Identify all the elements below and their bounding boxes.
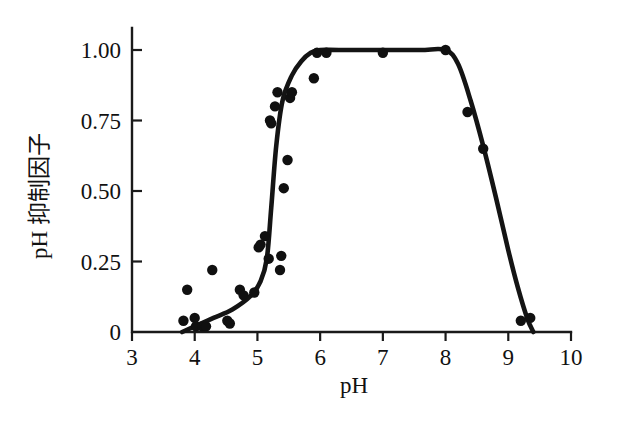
data-point	[182, 285, 192, 295]
x-tick-label: 9	[503, 345, 515, 370]
data-point	[207, 265, 217, 275]
x-axis-title: pH	[340, 373, 368, 398]
data-point	[287, 87, 297, 97]
data-point	[178, 316, 188, 326]
x-tick-label: 3	[126, 345, 138, 370]
data-point	[440, 45, 450, 55]
x-tick-label: 10	[560, 345, 583, 370]
data-point	[309, 73, 319, 83]
data-point	[266, 118, 276, 128]
x-tick-label: 4	[189, 345, 201, 370]
x-tick-label: 6	[314, 345, 326, 370]
x-tick-label: 7	[377, 345, 389, 370]
data-point	[264, 253, 274, 263]
data-point	[312, 48, 322, 58]
data-point	[238, 290, 248, 300]
data-point	[270, 101, 280, 111]
y-tick-label: 1.00	[81, 38, 121, 63]
data-point	[462, 107, 472, 117]
data-point	[321, 48, 331, 58]
data-point	[260, 231, 270, 241]
chart-figure: 345678910 00.250.500.751.00 pH pH 抑制因子	[0, 0, 637, 427]
data-point	[478, 144, 488, 154]
data-point	[275, 265, 285, 275]
data-point	[249, 287, 259, 297]
data-point	[378, 48, 388, 58]
data-point	[525, 313, 535, 323]
data-point	[279, 183, 289, 193]
data-point	[272, 87, 282, 97]
y-tick-label: 0.50	[81, 179, 121, 204]
data-point	[201, 321, 211, 331]
y-tick-label: 0.75	[81, 109, 121, 134]
x-tick-label: 5	[252, 345, 264, 370]
y-axis-title: pH 抑制因子	[27, 133, 52, 259]
data-point	[276, 251, 286, 261]
y-tick-label: 0	[110, 320, 122, 345]
data-point	[516, 316, 526, 326]
data-point	[225, 318, 235, 328]
y-tick-label: 0.25	[81, 250, 121, 275]
ph-inhibition-factor-chart: 345678910 00.250.500.751.00 pH pH 抑制因子	[0, 0, 637, 427]
data-point	[282, 155, 292, 165]
x-tick-label: 8	[440, 345, 452, 370]
